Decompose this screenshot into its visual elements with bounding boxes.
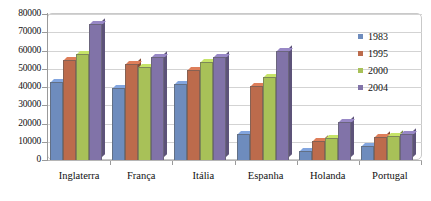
bar-face <box>63 60 76 160</box>
x-tick-4 <box>359 161 360 165</box>
legend-item-1983[interactable]: 1983 <box>358 28 420 45</box>
legend-swatch-icon-1995 <box>358 51 363 56</box>
y-tick-label-20000: 20000 <box>1 119 41 129</box>
bar-face <box>250 86 263 160</box>
legend-item-1995[interactable]: 1995 <box>358 45 420 62</box>
bar-itália-2000 <box>200 62 213 160</box>
bar-face <box>174 84 187 160</box>
bar-holanda-1995 <box>312 141 325 160</box>
y-tick-10000 <box>42 142 47 143</box>
bar-side-face <box>164 51 167 157</box>
legend-item-2000[interactable]: 2000 <box>358 62 420 79</box>
bar-face <box>89 24 102 160</box>
legend-item-2004[interactable]: 2004 <box>358 79 420 96</box>
x-tick-label-portugal: Portugal <box>359 170 421 181</box>
y-tick-80000 <box>42 14 47 15</box>
y-tick-70000 <box>42 32 47 33</box>
legend-label-1995: 1995 <box>368 49 388 59</box>
bar-face <box>187 70 200 160</box>
bar-itália-2004 <box>213 57 226 160</box>
y-tick-50000 <box>42 69 47 70</box>
bar-face <box>50 82 63 160</box>
bar-holanda-2000 <box>325 138 338 160</box>
y-tick-30000 <box>42 105 47 106</box>
legend-swatch-icon-1983 <box>358 34 363 39</box>
y-tick-label-0: 0 <box>1 155 41 165</box>
bar-portugal-2004 <box>400 134 413 160</box>
bar-face <box>325 138 338 160</box>
bar-face <box>374 137 387 160</box>
y-tick-60000 <box>42 51 47 52</box>
bar-face <box>76 54 89 160</box>
bar-chart: 0100002000030000400005000060000700008000… <box>0 0 431 201</box>
legend-swatch-icon-2004 <box>358 85 363 90</box>
bar-group-frança <box>112 14 164 160</box>
bar-side-face <box>102 18 105 157</box>
x-tick-5 <box>421 161 422 165</box>
bar-frança-1995 <box>125 64 138 160</box>
bar-face <box>276 51 289 160</box>
y-tick-label-80000: 80000 <box>1 9 41 19</box>
bar-group-inglaterra <box>50 14 102 160</box>
bar-espanha-2000 <box>263 77 276 160</box>
y-tick-label-70000: 70000 <box>1 27 41 37</box>
bar-face <box>138 67 151 160</box>
bar-inglaterra-1995 <box>63 60 76 160</box>
x-tick-3 <box>297 161 298 165</box>
bar-holanda-2004 <box>338 122 351 160</box>
bar-portugal-1995 <box>374 137 387 160</box>
bar-side-face <box>226 51 229 157</box>
bar-itália-1983 <box>174 84 187 160</box>
x-tick-1 <box>172 161 173 165</box>
y-tick-label-50000: 50000 <box>1 64 41 74</box>
bar-face <box>361 146 374 160</box>
bar-face <box>151 57 164 160</box>
bar-face <box>112 88 125 160</box>
bar-face <box>312 141 325 160</box>
y-tick-0 <box>42 160 47 161</box>
legend-label-1983: 1983 <box>368 32 388 42</box>
y-tick-label-30000: 30000 <box>1 100 41 110</box>
x-tick-label-espanha: Espanha <box>235 170 297 181</box>
bar-espanha-1995 <box>250 86 263 160</box>
bar-face <box>299 151 312 160</box>
bar-face <box>338 122 351 160</box>
bar-portugal-1983 <box>361 146 374 160</box>
y-tick-20000 <box>42 124 47 125</box>
y-tick-40000 <box>42 87 47 88</box>
bar-inglaterra-1983 <box>50 82 63 160</box>
legend-label-2004: 2004 <box>368 83 388 93</box>
x-tick-label-holanda: Holanda <box>297 170 359 181</box>
x-tick-label-inglaterra: Inglaterra <box>48 170 110 181</box>
bar-face <box>400 134 413 160</box>
y-tick-label-60000: 60000 <box>1 46 41 56</box>
bar-face <box>200 62 213 160</box>
bar-inglaterra-2000 <box>76 54 89 160</box>
bar-side-face <box>289 46 292 157</box>
y-tick-label-40000: 40000 <box>1 82 41 92</box>
bar-face <box>387 136 400 160</box>
bar-inglaterra-2004 <box>89 24 102 160</box>
y-axis-labels: 0100002000030000400005000060000700008000… <box>0 0 41 201</box>
bar-espanha-2004 <box>276 51 289 160</box>
x-tick-label-itália: Itália <box>172 170 234 181</box>
bar-group-espanha <box>237 14 289 160</box>
bar-espanha-1983 <box>237 134 250 160</box>
legend-swatch-icon-2000 <box>358 68 363 73</box>
bar-itália-1995 <box>187 70 200 160</box>
bar-face <box>263 77 276 160</box>
bar-side-face <box>351 116 354 157</box>
x-tick-label-frança: França <box>110 170 172 181</box>
bar-face <box>237 134 250 160</box>
bar-face <box>213 57 226 160</box>
bar-group-holanda <box>299 14 351 160</box>
x-tick-0 <box>110 161 111 165</box>
bar-frança-2004 <box>151 57 164 160</box>
legend-label-2000: 2000 <box>368 66 388 76</box>
bar-face <box>125 64 138 160</box>
y-tick-label-10000: 10000 <box>1 137 41 147</box>
bar-group-itália <box>174 14 226 160</box>
bar-portugal-2000 <box>387 136 400 160</box>
x-tick-2 <box>235 161 236 165</box>
legend: 1983199520002004 <box>358 28 420 96</box>
